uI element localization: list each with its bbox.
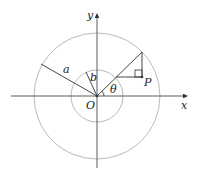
angle-arc: [102, 91, 104, 96]
inner-radius-label: b: [90, 72, 97, 83]
right-angle-mark: [135, 70, 142, 77]
origin-point: [96, 95, 99, 98]
x-axis-label: x: [181, 100, 187, 111]
angle-label: θ: [110, 84, 117, 95]
origin-label: O: [86, 100, 95, 111]
point-p: [141, 76, 144, 79]
y-axis-label: y: [87, 10, 93, 21]
point-p-label: P: [144, 77, 151, 88]
diagram: y x O a b θ P: [0, 0, 203, 180]
diagram-graphics: [0, 0, 203, 180]
outer-radius-label: a: [63, 64, 70, 75]
